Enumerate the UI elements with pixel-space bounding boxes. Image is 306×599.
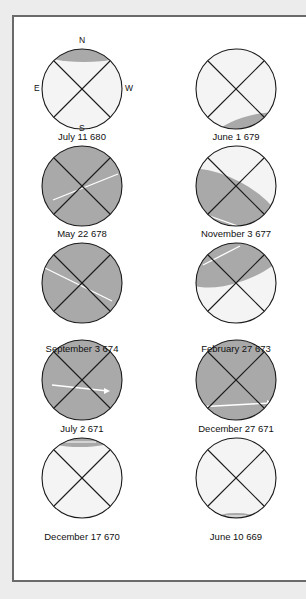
panel-label-5: February 27 673 <box>176 343 296 354</box>
eclipse-panel-4 <box>42 243 122 323</box>
eclipse-panel-8 <box>42 433 122 518</box>
panel-label-9: June 10 669 <box>176 531 296 542</box>
panel-label-1: June 1 679 <box>176 131 296 142</box>
panel-label-8: December 17 670 <box>22 531 142 542</box>
panel-label-0: July 11 680 <box>22 131 142 142</box>
panel-label-6: July 2 671 <box>22 423 142 434</box>
eclipse-diagrams <box>0 0 306 599</box>
eclipse-panel-3 <box>163 146 293 256</box>
panel-label-2: May 22 678 <box>22 228 142 239</box>
eclipse-panel-2 <box>42 146 122 226</box>
panel-label-4: September 3 674 <box>22 343 142 354</box>
compass-north: N <box>79 35 85 45</box>
compass-east: E <box>34 83 40 93</box>
eclipse-panel-0 <box>40 42 128 129</box>
compass-west: W <box>125 83 133 93</box>
panel-label-7: December 27 671 <box>176 423 296 434</box>
eclipse-panel-9 <box>196 438 276 523</box>
panel-label-3: November 3 677 <box>176 228 296 239</box>
